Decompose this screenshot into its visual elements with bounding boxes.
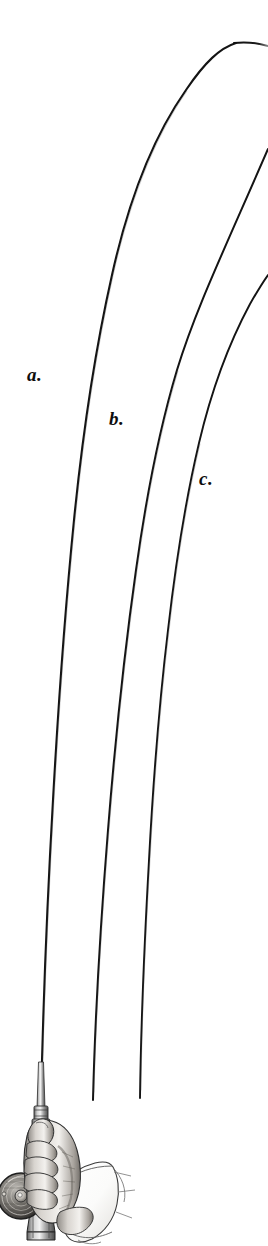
rod-curve-c-highlight — [141, 444, 200, 1090]
rod-curve-c-group — [140, 275, 268, 1098]
rod-curve-b-highlight — [94, 371, 178, 1092]
curve-label-c: c. — [199, 469, 213, 488]
rod-curve-a-group — [41, 42, 268, 1102]
plate-artwork — [0, 0, 268, 1246]
reel-hub-screw — [18, 1193, 22, 1197]
engraving-plate: a. b. c. — [0, 0, 268, 1246]
reel-rivet-left — [2, 1192, 6, 1196]
rod-curve-a-tip — [234, 42, 268, 46]
rod-curve-b-group — [93, 149, 268, 1100]
ferrule — [34, 1106, 48, 1120]
rod-butt-section — [37, 1062, 45, 1108]
butt-cap-rim — [27, 1232, 55, 1240]
rod-curve-a-highlight — [42, 91, 187, 1094]
rod-curve-b — [93, 149, 268, 1100]
rod-curve-c — [140, 275, 268, 1098]
curve-label-b: b. — [109, 409, 124, 428]
curve-label-a: a. — [27, 365, 42, 384]
